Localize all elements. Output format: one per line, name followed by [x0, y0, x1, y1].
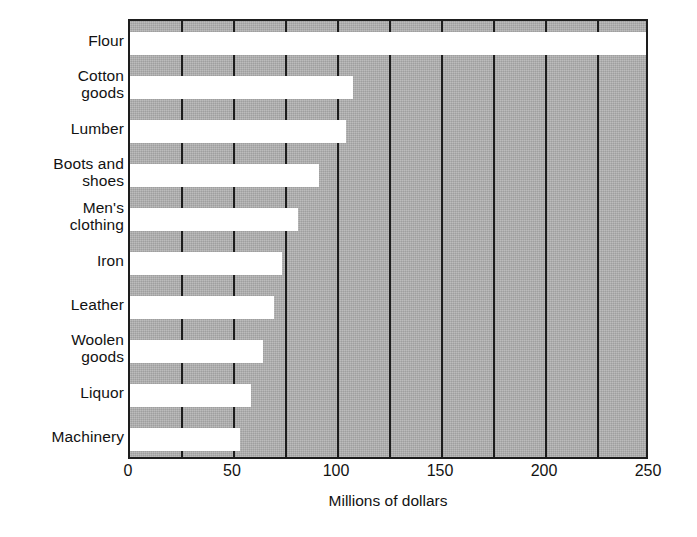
gridline	[493, 21, 495, 457]
category-label: Leather	[0, 296, 124, 313]
category-label: Cotton goods	[0, 67, 124, 101]
x-tick-label: 50	[223, 461, 241, 481]
x-tick-label: 100	[323, 461, 350, 481]
x-axis-title: Millions of dollars	[128, 492, 648, 510]
bar	[130, 384, 251, 407]
gridline	[545, 21, 547, 457]
plot-area	[128, 19, 648, 459]
gridline	[597, 21, 599, 457]
category-label: Liquor	[0, 384, 124, 401]
bar	[130, 340, 263, 363]
category-label: Boots and shoes	[0, 155, 124, 189]
category-label: Flour	[0, 32, 124, 49]
bar	[130, 296, 274, 319]
gridline	[389, 21, 391, 457]
category-label: Iron	[0, 252, 124, 269]
x-axis: 050100150200250	[128, 461, 648, 487]
category-label: Men's clothing	[0, 199, 124, 233]
gridline	[441, 21, 443, 457]
category-label: Woolen goods	[0, 331, 124, 365]
x-tick-label: 150	[427, 461, 454, 481]
bar	[130, 120, 346, 143]
bar	[130, 208, 298, 231]
bar	[130, 164, 319, 187]
bar-chart: FlourCotton goodsLumberBoots and shoesMe…	[0, 0, 697, 537]
bar	[130, 252, 282, 275]
bar	[130, 32, 646, 55]
category-axis: FlourCotton goodsLumberBoots and shoesMe…	[0, 19, 124, 459]
category-label: Machinery	[0, 428, 124, 445]
bar	[130, 428, 240, 451]
x-tick-label: 250	[635, 461, 662, 481]
category-label: Lumber	[0, 120, 124, 137]
x-tick-label: 0	[124, 461, 133, 481]
x-tick-label: 200	[531, 461, 558, 481]
bar	[130, 76, 353, 99]
